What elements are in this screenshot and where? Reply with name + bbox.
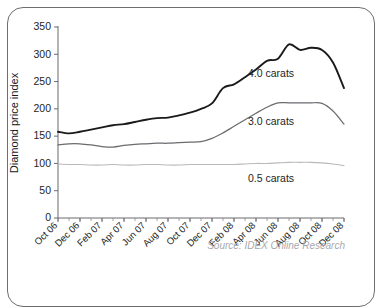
series-label-4-0-carats: 4.0 carats [248,67,294,79]
series-line-4-0-carats [58,44,344,133]
x-tick-label: Apr 07 [98,220,126,248]
y-tick-label: 200 [33,102,51,114]
x-tick-label: Dec 06 [52,220,81,249]
y-tick-label: 100 [33,157,51,169]
y-tick-label: 250 [33,75,51,87]
y-tick-label: 50 [39,184,51,196]
series-label-3-0-carats: 3.0 carats [248,115,294,127]
x-tick-label: Feb 07 [75,220,104,249]
y-axis-title: Diamond price index [8,72,20,173]
series-lines [58,44,344,165]
y-axis: 050100150200250300350 [33,20,58,223]
y-tick-label: 300 [33,48,51,60]
source-note: Source: IDEX Online Research [207,240,345,251]
y-tick-label: 350 [33,20,51,32]
series-annotations: 4.0 carats3.0 carats0.5 carats [248,67,294,184]
x-tick-label: Aug 07 [140,220,169,249]
y-tick-label: 150 [33,129,51,141]
series-line-0-5-carats [58,162,344,165]
series-label-0-5-carats: 0.5 carats [248,172,294,184]
